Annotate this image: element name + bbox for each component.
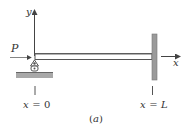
load-label: P <box>10 42 19 55</box>
pin-support <box>16 60 53 78</box>
label-x-equals-L: x = L <box>140 99 168 110</box>
y-axis-label: y <box>25 6 32 17</box>
y-axis: y <box>25 6 35 56</box>
figure-caption: (a) <box>89 113 103 124</box>
beam-diagram: y x P x = 0 x = L (a) <box>0 0 191 133</box>
x-axis: x <box>161 57 180 69</box>
load-p: P <box>10 42 31 58</box>
ground-hatch <box>16 73 53 78</box>
label-x-equals-0: x = 0 <box>23 99 50 110</box>
fixed-wall <box>152 34 157 80</box>
x-axis-label: x <box>173 57 179 68</box>
